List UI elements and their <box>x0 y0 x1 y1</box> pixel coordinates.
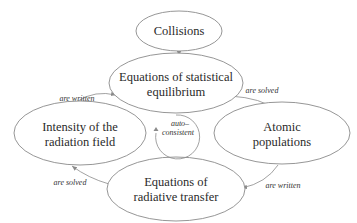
node-label-transfer-line1: Equations of <box>144 175 208 189</box>
edge-transfer-to-intensity: are solved <box>54 166 109 187</box>
node-label-collisions: Collisions <box>154 24 205 38</box>
edge-populations-to-transfer: are written <box>242 165 301 190</box>
node-radiative-transfer: Equations of radiative transfer <box>107 157 245 221</box>
node-label-equilibrium-line2: equilibrium <box>147 85 206 99</box>
loop-label-line2: consistent <box>162 128 195 137</box>
auto-consistent-loop: auto– consistent <box>154 115 200 159</box>
loop-label-line1: auto– <box>171 119 190 128</box>
node-label-populations-line1: Atomic <box>263 120 301 134</box>
node-label-equilibrium-line1: Equations of statistical <box>119 70 233 84</box>
node-atomic-populations: Atomic populations <box>214 102 350 164</box>
edge-label-are-written-2: are written <box>265 181 300 190</box>
loop-arrowhead-icon <box>154 127 159 131</box>
edge-label-are-solved-1: are solved <box>246 86 280 95</box>
node-label-intensity-line2: radiation field <box>45 135 116 149</box>
cycle-diagram: are solved are written are solved are wr… <box>0 0 357 223</box>
node-radiation-intensity: Intensity of the radiation field <box>14 101 146 165</box>
node-label-populations-line2: populations <box>253 135 311 149</box>
node-collisions: Collisions <box>136 11 222 51</box>
node-statistical-equilibrium: Equations of statistical equilibrium <box>109 53 243 113</box>
edge-label-are-solved-2: are solved <box>54 178 88 187</box>
node-label-intensity-line1: Intensity of the <box>42 120 118 134</box>
node-label-transfer-line2: radiative transfer <box>133 190 219 204</box>
